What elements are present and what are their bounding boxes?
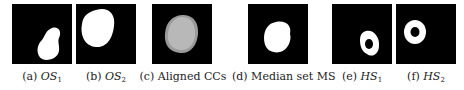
caption-f: (f) HS2 [396, 70, 456, 84]
caption-math: HS [360, 70, 377, 83]
caption-e: (e) HS1 [332, 70, 392, 84]
panel-median-set-image [248, 4, 308, 64]
caption-math: OS [41, 70, 58, 83]
ring-shape-icon [396, 4, 456, 64]
caption-text: (c) Aligned CCs [140, 70, 227, 83]
ring-shape-icon [332, 4, 392, 64]
blob-shape-icon [12, 4, 72, 64]
caption-tag: (f) [407, 70, 420, 83]
caption-sub: 1 [378, 76, 382, 84]
blob-shape-icon [248, 4, 308, 64]
caption-text: (d) Median set MS [232, 70, 335, 83]
caption-sub: 2 [122, 76, 126, 84]
panel-hs1-image [332, 4, 392, 64]
panel-os1-image [12, 4, 72, 64]
caption-c: (c) Aligned CCs [138, 70, 228, 83]
blob-shape-icon [76, 4, 136, 64]
caption-a: (a) OS1 [12, 70, 72, 84]
caption-d: (d) Median set MS [232, 70, 324, 83]
caption-tag: (a) [22, 70, 37, 83]
caption-tag: (b) [86, 70, 102, 83]
caption-sub: 1 [57, 76, 61, 84]
panel-aligned-ccs-image [152, 4, 212, 64]
caption-b: (b) OS2 [76, 70, 136, 84]
caption-tag: (e) [342, 70, 357, 83]
caption-sub: 2 [440, 76, 444, 84]
panel-os2-image [76, 4, 136, 64]
caption-math: OS [105, 70, 122, 83]
overlay-blobs-icon [152, 4, 212, 64]
panel-hs2-image [396, 4, 456, 64]
caption-math: HS [423, 70, 440, 83]
